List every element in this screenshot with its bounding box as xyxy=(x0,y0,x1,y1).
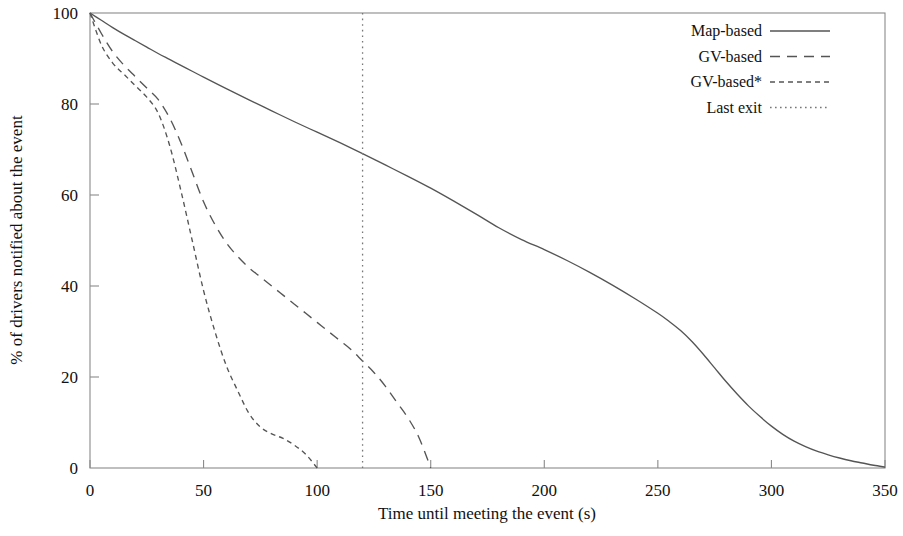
x-tick-label-50: 50 xyxy=(195,481,212,500)
figure-container: 050100150200250300350 020406080100 Time … xyxy=(0,0,903,536)
series-line-gv-based xyxy=(90,13,317,468)
series-line-map-based xyxy=(90,13,885,467)
x-tick-labels: 050100150200250300350 xyxy=(86,481,898,500)
x-tick-label-100: 100 xyxy=(304,481,330,500)
y-tick-label-0: 0 xyxy=(70,459,79,478)
y-tick-label-40: 40 xyxy=(61,277,78,296)
legend-label-gv-based: GV-based* xyxy=(691,73,762,90)
x-tick-label-300: 300 xyxy=(759,481,785,500)
legend-label-map-based: Map-based xyxy=(691,22,762,40)
y-tick-label-100: 100 xyxy=(53,4,79,23)
y-tick-label-60: 60 xyxy=(61,186,78,205)
legend-label-gv-based: GV-based xyxy=(699,48,762,65)
y-tick-labels: 020406080100 xyxy=(53,4,79,478)
x-tick-label-200: 200 xyxy=(532,481,558,500)
plot-area-border xyxy=(90,13,885,468)
x-tick-label-350: 350 xyxy=(872,481,898,500)
legend: Map-basedGV-basedGV-based*Last exit xyxy=(691,22,830,116)
legend-label-last-exit: Last exit xyxy=(706,99,762,116)
x-axis-ticks xyxy=(90,460,885,468)
chart-canvas: 050100150200250300350 020406080100 Time … xyxy=(0,0,903,536)
x-tick-label-150: 150 xyxy=(418,481,444,500)
series-group xyxy=(90,13,885,468)
y-tick-label-20: 20 xyxy=(61,368,78,387)
y-tick-label-80: 80 xyxy=(61,95,78,114)
y-axis-ticks xyxy=(90,104,99,377)
x-tick-label-250: 250 xyxy=(645,481,671,500)
y-axis-title: % of drivers notified about the event xyxy=(7,115,26,365)
x-tick-label-0: 0 xyxy=(86,481,95,500)
series-line-gv-based xyxy=(90,13,431,468)
x-axis-title: Time until meeting the event (s) xyxy=(378,504,596,523)
plot-frame xyxy=(90,13,885,468)
